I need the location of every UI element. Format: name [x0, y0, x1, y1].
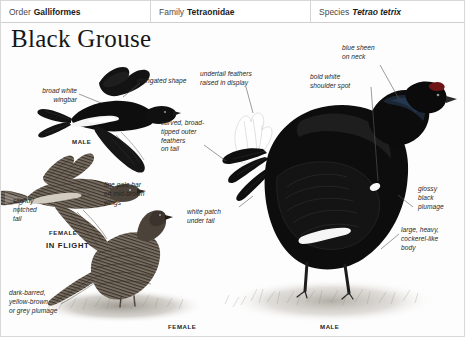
caption-female-ground: FEMALE: [168, 323, 196, 330]
caption-in-flight: IN FLIGHT: [46, 241, 89, 250]
annotation-bold-white-shoulder-spot: bold white shoulder spot: [310, 73, 372, 91]
annotation-undertail-feathers: undertail feathers raised in display: [200, 70, 272, 88]
caption-female-in-flight: FEMALE: [49, 229, 77, 236]
annotation-curved-outer-feathers: curved, broad- tipped outer feathers on …: [161, 119, 217, 154]
annotation-large-heavy-body: large, heavy, cockerel-like body: [401, 226, 463, 252]
annotation-white-patch-under-tail: white patch under tail: [187, 208, 243, 226]
annotation-dark-barred-plumage: dark-barred, yellow-brown or grey plumag…: [9, 289, 83, 315]
annotation-fine-pale-bar: fine pale bar on mid-brown wings: [104, 181, 166, 207]
annotation-blue-sheen-on-neck: blue sheen on neck: [342, 44, 398, 62]
bird-identification-plate: Order Galliformes Family Tetraonidae Spe…: [0, 0, 465, 337]
annotation-elongated-shape: elongated shape: [137, 77, 203, 86]
caption-male-in-flight: MALE: [72, 138, 91, 145]
annotation-slightly-notched-tail: slightly notched tail: [13, 197, 59, 223]
annotation-broad-white-wingbar: broad white wingbar: [13, 87, 77, 105]
caption-male-ground: MALE: [320, 323, 339, 330]
annotation-glossy-black-plumage: glossy black plumage: [418, 185, 464, 211]
